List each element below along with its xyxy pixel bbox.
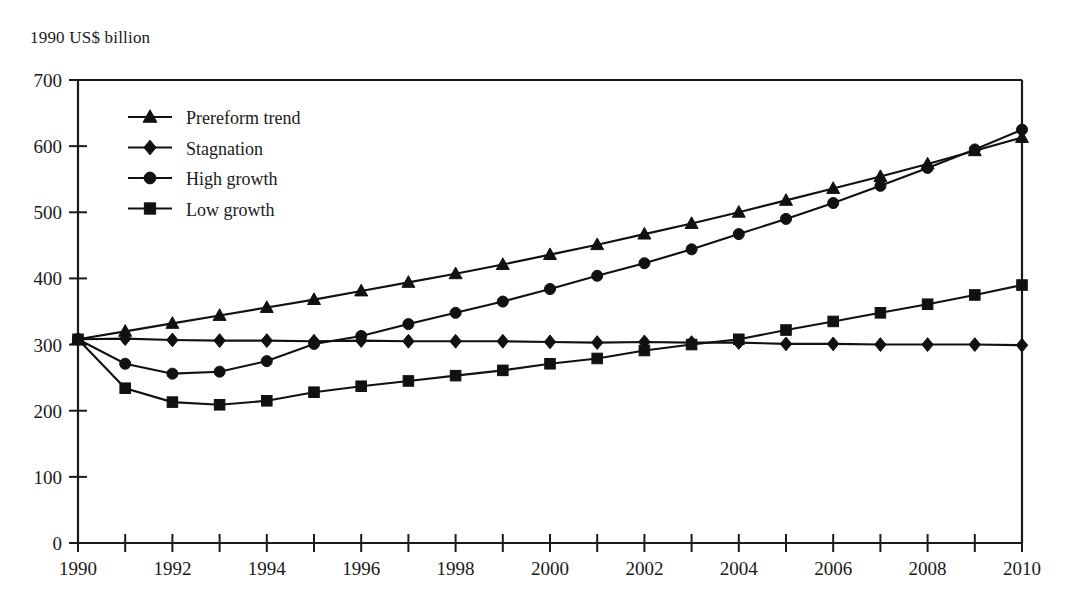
data-point-diamond-marker xyxy=(969,338,980,352)
data-point-square-marker xyxy=(403,376,414,387)
data-point-circle-marker xyxy=(780,213,791,224)
data-point-circle-marker xyxy=(875,180,886,191)
x-axis-tick-label: 2000 xyxy=(531,558,569,579)
data-point-square-marker xyxy=(639,345,650,356)
chart-figure: 1990 US$ billion 01002003004005006007001… xyxy=(0,0,1074,614)
data-point-diamond-marker xyxy=(592,336,603,350)
y-axis-tick-label: 300 xyxy=(34,335,63,356)
data-point-circle-marker xyxy=(733,229,744,240)
y-axis-tick-label: 0 xyxy=(53,533,63,554)
data-point-circle-marker xyxy=(592,270,603,281)
data-point-diamond-marker xyxy=(144,140,156,155)
data-point-circle-marker xyxy=(403,319,414,330)
data-point-square-marker xyxy=(309,387,320,398)
data-point-circle-marker xyxy=(922,162,933,173)
legend-item: Stagnation xyxy=(128,139,263,159)
data-point-circle-marker xyxy=(1016,124,1027,135)
data-point-circle-marker xyxy=(308,338,319,349)
data-point-square-marker xyxy=(875,308,886,319)
data-point-diamond-marker xyxy=(544,335,555,349)
legend-item-label: Low growth xyxy=(186,200,275,220)
data-point-diamond-marker xyxy=(497,334,508,348)
y-axis-tick-label: 700 xyxy=(34,70,63,91)
y-axis-tick-label: 400 xyxy=(34,268,63,289)
chart-legend: Prereform trendStagnationHigh growthLow … xyxy=(128,108,300,220)
legend-item: Low growth xyxy=(128,200,275,220)
x-axis-tick-label: 2010 xyxy=(1003,558,1041,579)
data-point-circle-marker xyxy=(450,307,461,318)
data-point-diamond-marker xyxy=(167,333,178,347)
legend-item-label: Stagnation xyxy=(186,139,263,159)
data-point-square-marker xyxy=(922,299,933,310)
data-point-circle-marker xyxy=(167,368,178,379)
data-point-diamond-marker xyxy=(922,338,933,352)
data-point-square-marker xyxy=(73,334,84,345)
legend-item: Prereform trend xyxy=(128,108,300,128)
line-chart-plot: 0100200300400500600700199019921994199619… xyxy=(0,0,1074,614)
data-point-circle-marker xyxy=(144,172,156,184)
data-point-circle-marker xyxy=(261,356,272,367)
y-axis-tick-label: 200 xyxy=(34,401,63,422)
x-axis-tick-label: 1996 xyxy=(342,558,380,579)
data-point-diamond-marker xyxy=(828,337,839,351)
data-point-square-marker xyxy=(450,370,461,381)
x-axis-tick-label: 1992 xyxy=(153,558,191,579)
x-axis-tick-label: 2004 xyxy=(720,558,759,579)
data-point-diamond-marker xyxy=(1016,338,1027,352)
x-axis-tick-label: 2002 xyxy=(625,558,663,579)
data-point-circle-marker xyxy=(120,358,131,369)
data-point-circle-marker xyxy=(544,283,555,294)
legend-item: High growth xyxy=(128,169,278,189)
data-point-diamond-marker xyxy=(780,337,791,351)
y-axis-tick-label: 500 xyxy=(34,202,63,223)
data-point-square-marker xyxy=(498,365,509,376)
data-point-square-marker xyxy=(781,325,792,336)
legend-item-label: High growth xyxy=(186,169,278,189)
data-point-circle-marker xyxy=(686,244,697,255)
y-axis-tick-label: 600 xyxy=(34,136,63,157)
data-point-diamond-marker xyxy=(261,334,272,348)
data-point-circle-marker xyxy=(356,330,367,341)
data-point-circle-marker xyxy=(828,198,839,209)
data-point-circle-marker xyxy=(214,366,225,377)
data-point-square-marker xyxy=(356,381,367,392)
data-point-square-marker xyxy=(262,396,273,407)
data-point-square-marker xyxy=(167,397,178,408)
data-point-circle-marker xyxy=(969,144,980,155)
legend-item-label: Prereform trend xyxy=(186,108,300,128)
data-point-square-marker xyxy=(828,316,839,327)
x-axis-tick-label: 1990 xyxy=(59,558,97,579)
data-point-diamond-marker xyxy=(214,334,225,348)
data-point-square-marker xyxy=(1017,280,1028,291)
data-point-diamond-marker xyxy=(403,334,414,348)
x-axis-tick-label: 1994 xyxy=(248,558,287,579)
data-point-square-marker xyxy=(120,383,131,394)
data-point-square-marker xyxy=(144,203,155,214)
data-point-square-marker xyxy=(686,339,697,350)
data-point-diamond-marker xyxy=(875,338,886,352)
y-axis-tick-label: 100 xyxy=(34,467,63,488)
data-point-square-marker xyxy=(214,399,225,410)
x-axis-tick-label: 2008 xyxy=(909,558,947,579)
data-point-square-marker xyxy=(734,334,745,345)
axes-group: 0100200300400500600700199019921994199619… xyxy=(34,70,1042,579)
data-point-square-marker xyxy=(970,290,981,301)
x-axis-tick-label: 2006 xyxy=(814,558,852,579)
data-point-square-marker xyxy=(545,358,556,369)
data-point-square-marker xyxy=(592,353,603,364)
series-group xyxy=(72,124,1029,410)
data-point-circle-marker xyxy=(639,258,650,269)
data-point-circle-marker xyxy=(497,296,508,307)
data-point-diamond-marker xyxy=(450,334,461,348)
chart-series xyxy=(72,332,1027,352)
x-axis-tick-label: 1998 xyxy=(437,558,475,579)
